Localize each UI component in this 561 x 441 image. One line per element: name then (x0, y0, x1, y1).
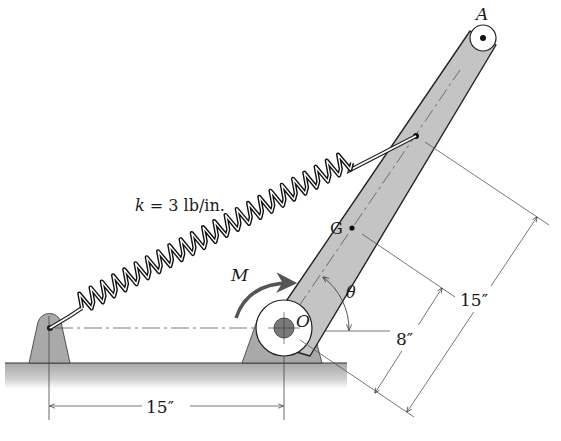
label-M: M (230, 265, 249, 285)
mechanics-diagram: A G O M θ k = 3 lb/in. 8″ 15″ 15″ (0, 0, 561, 441)
label-theta: θ (346, 283, 356, 302)
extension-line-spring (425, 142, 549, 225)
extension-line-G (362, 234, 455, 297)
pin-A (470, 25, 496, 51)
label-dim-15in-right: 15″ (460, 290, 488, 310)
dim-line-15in-right (407, 217, 537, 412)
ground (5, 363, 347, 389)
center-of-mass-G-icon (349, 225, 354, 230)
label-spring-constant: k = 3 lb/in. (135, 196, 225, 215)
label-O: O (296, 311, 310, 331)
label-A: A (474, 4, 488, 24)
label-dim-15in-ground: 15″ (146, 397, 174, 417)
label-G: G (330, 219, 343, 238)
label-dim-8in: 8″ (396, 329, 413, 349)
